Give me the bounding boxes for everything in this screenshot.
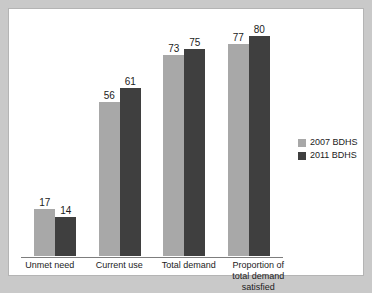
bar-item[interactable]: 77 — [228, 17, 249, 256]
x-axis-label: Current use — [85, 260, 155, 293]
legend-item[interactable]: 2007 BDHS — [298, 136, 358, 149]
x-axis-label: Total demand — [154, 260, 224, 293]
bar-item[interactable]: 17 — [34, 17, 55, 256]
chart-figure: 1714566173757780 Unmet needCurrent useTo… — [8, 8, 364, 276]
bar-groups-container: 1714566173757780 — [23, 17, 281, 256]
bar[interactable] — [249, 36, 270, 256]
x-axis-tick-labels: Unmet needCurrent useTotal demandProport… — [15, 260, 293, 293]
legend-label: 2007 BDHS — [310, 137, 358, 148]
bar-group: 1714 — [23, 17, 88, 256]
legend-swatch-icon — [298, 152, 306, 160]
bar-item[interactable]: 73 — [163, 17, 184, 256]
bar[interactable] — [34, 209, 55, 256]
bar-group: 7375 — [152, 17, 217, 256]
bar-value-label: 80 — [254, 24, 265, 35]
bar-item[interactable]: 80 — [249, 17, 270, 256]
chart-legend: 2007 BDHS2011 BDHS — [295, 133, 362, 165]
bar[interactable] — [99, 102, 120, 256]
bar[interactable] — [228, 44, 249, 256]
bar-value-label: 75 — [189, 37, 200, 48]
bar-value-label: 61 — [125, 76, 136, 87]
legend-item[interactable]: 2011 BDHS — [298, 149, 358, 162]
bar-item[interactable]: 75 — [184, 17, 205, 256]
bar[interactable] — [184, 49, 205, 256]
bar-value-label: 56 — [104, 90, 115, 101]
bar-item[interactable]: 56 — [99, 17, 120, 256]
bar-group: 7780 — [217, 17, 282, 256]
bar[interactable] — [163, 55, 184, 256]
bar-value-label: 73 — [168, 43, 179, 54]
x-axis-label: Unmet need — [15, 260, 85, 293]
legend-label: 2011 BDHS — [310, 150, 357, 161]
bar-value-label: 17 — [39, 197, 50, 208]
bar[interactable] — [55, 217, 76, 256]
x-axis-label: Proportion of total demand satisfied — [224, 260, 294, 293]
x-axis-line — [21, 257, 283, 258]
plot-area: 1714566173757780 — [23, 17, 281, 257]
bar-group: 5661 — [88, 17, 153, 256]
bar[interactable] — [120, 88, 141, 256]
legend-swatch-icon — [298, 139, 306, 147]
bar-value-label: 77 — [233, 32, 244, 43]
bar-value-label: 14 — [60, 205, 71, 216]
bar-item[interactable]: 61 — [120, 17, 141, 256]
bar-item[interactable]: 14 — [55, 17, 76, 256]
